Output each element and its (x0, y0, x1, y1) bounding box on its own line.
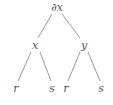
edge-root-to-x (38, 14, 52, 38)
edge-y-to-s (88, 52, 100, 81)
node-x-r: r (13, 82, 19, 95)
node-y: y (80, 39, 88, 52)
node-y-s: s (98, 82, 104, 95)
node-x: x (32, 39, 39, 52)
node-y-r: r (63, 82, 69, 95)
node-root: ∂x (51, 1, 64, 14)
node-x-s: s (49, 82, 55, 95)
edge-root-to-y (62, 14, 80, 38)
edge-y-to-r (68, 52, 80, 81)
edge-x-to-r (18, 52, 31, 81)
edge-x-to-s (40, 52, 51, 81)
tree-diagram: ∂x x y r s r s (0, 0, 113, 105)
